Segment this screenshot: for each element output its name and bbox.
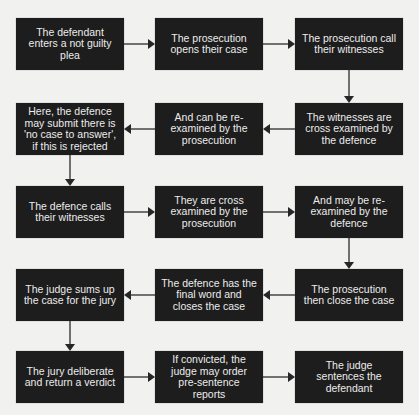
arrow-s5-to-s6 xyxy=(124,124,155,134)
step-box-not-guilty-plea: The defendant enters a not guilty plea xyxy=(16,18,124,70)
step-box-re-examined-by-defence: And may be re-examined by the defence xyxy=(295,186,403,238)
arrowhead-icon xyxy=(288,39,295,49)
step-box-prosecution-opens: The prosecution opens their case xyxy=(155,18,263,70)
flowchart-canvas: The defendant enters a not guilty plea T… xyxy=(0,0,419,415)
arrowhead-icon xyxy=(124,290,131,300)
step-text: The witnesses are cross examined by the … xyxy=(301,112,397,147)
arrow-s3-to-s4 xyxy=(344,70,354,103)
arrow-s14-to-s15 xyxy=(263,372,295,382)
step-box-judge-sentences: The judge sentences the defendant xyxy=(295,351,403,403)
arrow-s8-to-s9 xyxy=(263,207,295,217)
arrowhead-icon xyxy=(263,124,270,134)
step-box-jury-verdict: The jury deliberate and return a verdict xyxy=(16,351,124,403)
step-text: And can be re-examined by the prosecutio… xyxy=(161,112,257,147)
step-text: The jury deliberate and return a verdict xyxy=(22,366,118,389)
arrowhead-icon xyxy=(288,207,295,217)
step-box-prosecution-witnesses: The prosecution call their witnesses xyxy=(295,18,403,70)
step-box-re-examined-by-prosecution: And can be re-examined by the prosecutio… xyxy=(155,103,263,155)
step-box-no-case-to-answer: Here, the defence may submit there is 'n… xyxy=(16,103,124,155)
step-box-defence-final-word: The defence has the final word and close… xyxy=(155,269,263,321)
arrow-s7-to-s8 xyxy=(124,207,155,217)
arrow-s13-to-s14 xyxy=(124,372,155,382)
step-box-prosecution-closes: The prosecution then close the case xyxy=(295,269,403,321)
step-text: The judge sums up the case for the jury xyxy=(22,284,118,307)
arrowhead-icon xyxy=(344,96,354,103)
step-text: The prosecution call their witnesses xyxy=(301,33,397,56)
step-text: The judge sentences the defendant xyxy=(301,360,397,395)
arrowhead-icon xyxy=(148,39,155,49)
step-box-cross-examined-by-defence: The witnesses are cross examined by the … xyxy=(295,103,403,155)
arrowhead-icon xyxy=(148,207,155,217)
step-text: The prosecution opens their case xyxy=(161,33,257,56)
arrow-s6-to-s7 xyxy=(65,155,75,186)
step-text: The defendant enters a not guilty plea xyxy=(22,27,118,62)
arrow-s11-to-s12 xyxy=(124,290,155,300)
step-text: If convicted, the judge may order pre-se… xyxy=(161,354,257,400)
arrowhead-icon xyxy=(288,372,295,382)
arrowhead-icon xyxy=(124,124,131,134)
arrowhead-icon xyxy=(65,179,75,186)
arrowhead-icon xyxy=(344,262,354,269)
arrow-s2-to-s3 xyxy=(263,39,295,49)
step-text: The prosecution then close the case xyxy=(301,284,397,307)
arrow-s9-to-s10 xyxy=(344,238,354,269)
step-text: The defence has the final word and close… xyxy=(161,278,257,313)
step-box-cross-examined-by-prosecution: They are cross examined by the prosecuti… xyxy=(155,186,263,238)
step-text: They are cross examined by the prosecuti… xyxy=(161,195,257,230)
arrowhead-icon xyxy=(148,372,155,382)
arrowhead-icon xyxy=(263,290,270,300)
step-text: And may be re-examined by the defence xyxy=(301,195,397,230)
step-box-judge-sums-up: The judge sums up the case for the jury xyxy=(16,269,124,321)
step-box-pre-sentence-reports: If convicted, the judge may order pre-se… xyxy=(155,351,263,403)
step-box-defence-calls-witnesses: The defence calls their witnesses xyxy=(16,186,124,238)
arrow-s1-to-s2 xyxy=(124,39,155,49)
arrowhead-icon xyxy=(65,344,75,351)
step-text: Here, the defence may submit there is 'n… xyxy=(22,106,118,152)
arrow-s4-to-s5 xyxy=(263,124,295,134)
step-text: The defence calls their witnesses xyxy=(22,201,118,224)
arrow-s12-to-s13 xyxy=(65,321,75,351)
arrow-s10-to-s11 xyxy=(263,290,295,300)
